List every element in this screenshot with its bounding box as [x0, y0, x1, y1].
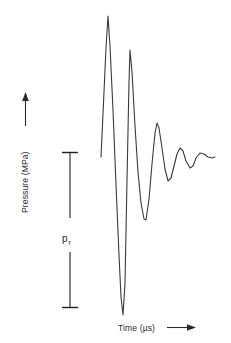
x-axis-group: Time (µs) — [118, 323, 196, 333]
pressure-scale-bar: p r — [62, 153, 78, 308]
pressure-waveform-figure: Pressure (MPa) p r Time (µs) — [0, 0, 231, 343]
scale-bar-label-subscript: r — [69, 239, 72, 246]
x-axis-arrow — [167, 324, 196, 331]
waveform-plot-canvas: Pressure (MPa) p r Time (µs) — [0, 0, 231, 343]
waveform-line — [101, 16, 215, 315]
y-axis-group: Pressure (MPa) — [20, 92, 30, 213]
scale-bar-label-base: p — [62, 233, 68, 244]
y-axis-label: Pressure (MPa) — [20, 151, 30, 213]
y-axis-arrow — [22, 92, 29, 126]
x-axis-label: Time (µs) — [118, 323, 155, 333]
acoustic-pressure-waveform — [101, 16, 215, 315]
